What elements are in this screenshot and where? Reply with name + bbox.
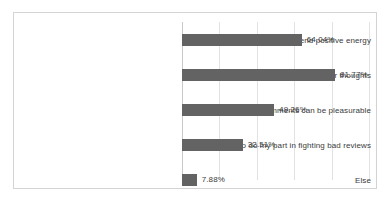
bar-group: 64.04%: [182, 34, 334, 46]
bar-group: 81.77%: [182, 69, 368, 81]
bar[interactable]: [182, 104, 274, 116]
bar-row: Else7.88%: [14, 162, 376, 197]
bar-group: 32.51%: [182, 139, 276, 151]
bar-row: To express your thoughts81.77%: [14, 57, 376, 92]
plot-area: To send positive energy64.04%To express …: [14, 13, 376, 188]
bar[interactable]: [182, 34, 302, 46]
bar-row: To send positive energy64.04%: [14, 22, 376, 57]
bar-value-label: 7.88%: [202, 175, 225, 184]
bar-value-label: 32.51%: [248, 140, 276, 149]
bar-row: Altruistic comments can be pleasurable49…: [14, 92, 376, 127]
bar-group: 7.88%: [182, 174, 225, 186]
bar-row: To do my part in fighting bad reviews32.…: [14, 127, 376, 162]
bar[interactable]: [182, 139, 243, 151]
chart-frame: To send positive energy64.04%To express …: [13, 12, 377, 189]
category-label: Else: [216, 175, 376, 184]
bar-group: 49.26%: [182, 104, 307, 116]
bar[interactable]: [182, 174, 197, 186]
bar-value-label: 49.26%: [279, 105, 307, 114]
bar-value-label: 64.04%: [307, 35, 335, 44]
bar[interactable]: [182, 69, 335, 81]
bar-value-label: 81.77%: [340, 70, 368, 79]
